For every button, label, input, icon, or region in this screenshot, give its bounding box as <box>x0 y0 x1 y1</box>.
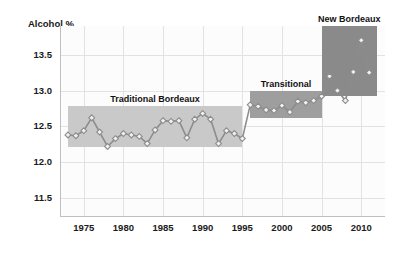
y-tick-label-13.0: 13.0 <box>18 85 52 96</box>
data-point-marker <box>247 102 253 108</box>
y-tick-label-11.5: 11.5 <box>18 192 52 203</box>
plot-inner <box>60 26 385 216</box>
era-label-traditional-bordeaux: Traditional Bordeaux <box>110 94 200 104</box>
x-tick-label-2000: 2000 <box>262 222 302 233</box>
data-point-marker <box>303 100 309 106</box>
plot-area <box>60 26 385 216</box>
x-tick-label-1975: 1975 <box>64 222 104 233</box>
y-tick-label-12.5: 12.5 <box>18 120 52 131</box>
data-point-marker <box>65 132 71 138</box>
x-tick-label-1985: 1985 <box>143 222 183 233</box>
x-tick-label-2005: 2005 <box>302 222 342 233</box>
data-point-marker <box>184 135 190 141</box>
data-point-marker <box>319 93 325 99</box>
chart-figure: Alcohol % 13.513.012.512.011.5 197519801… <box>0 0 419 271</box>
data-point-marker <box>255 103 261 109</box>
data-point-marker <box>311 98 317 104</box>
x-tick-label-2010: 2010 <box>341 222 381 233</box>
y-tick-label-13.5: 13.5 <box>18 49 52 60</box>
x-tick-label-1995: 1995 <box>222 222 262 233</box>
data-point-marker <box>350 69 356 75</box>
data-point-marker <box>366 70 372 76</box>
y-tick-label-12.0: 12.0 <box>18 156 52 167</box>
data-point-marker <box>176 118 182 124</box>
x-axis-line <box>60 216 385 217</box>
x-tick-label-1980: 1980 <box>103 222 143 233</box>
era-label-new-bordeaux: New Bordeaux <box>318 14 381 24</box>
data-point-marker <box>128 132 134 138</box>
data-point-marker <box>263 107 269 113</box>
data-point-marker <box>358 37 364 43</box>
line-series-alcohol <box>60 26 385 216</box>
era-label-transitional: Transitional <box>261 79 312 89</box>
y-axis-line <box>60 26 61 216</box>
data-point-marker <box>168 118 174 124</box>
x-tick-label-1990: 1990 <box>183 222 223 233</box>
